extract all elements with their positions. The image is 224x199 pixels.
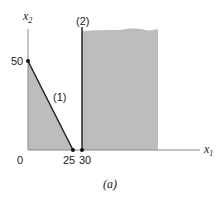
tick-label-x-25: 25: [63, 154, 75, 166]
constraint-1-label: (1): [53, 91, 66, 103]
shaded-region-constraint-2: [82, 29, 158, 151]
point-x-30: [80, 148, 84, 152]
tick-label-x-30: 30: [79, 154, 91, 166]
y-axis-label: x2: [22, 9, 32, 25]
origin-label: 0: [17, 154, 23, 166]
constraint-2-label: (2): [76, 15, 89, 27]
point-y-50: [26, 59, 30, 63]
figure-caption: (a): [103, 177, 117, 191]
tick-label-y-50: 50: [11, 55, 23, 67]
x-axis-label: x1: [203, 142, 213, 158]
feasible-region-diagram: x2 x1 50 0 25 30 (1) (2) (a): [0, 0, 224, 199]
point-x-25: [71, 148, 75, 152]
